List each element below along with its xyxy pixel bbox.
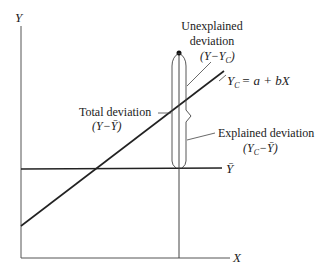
regression-label: YC= a + bX [227,73,291,90]
total-label: Total deviation [79,105,151,119]
y-axis-label: Y [15,10,24,25]
x-axis-label: X [232,250,242,265]
explained-formula: (YC−Ȳ) [243,141,278,157]
unexplained-formula: (Y−YC) [200,49,235,65]
mean-line-label: Ȳ [226,161,235,176]
explained-deviation-brace [182,116,191,168]
mean-line [21,168,222,169]
explained-leader [187,133,215,140]
unexplained-label-line1: Unexplained [181,19,242,33]
regression-diagram: Y X Ȳ Unexplained deviation (Y−YC) YC= a… [0,0,327,274]
unexplained-deviation-brace [186,66,191,116]
regression-line [21,71,224,226]
explained-label: Explained deviation [218,126,314,140]
regression-leader [219,75,226,81]
unexplained-leader [187,62,211,86]
unexplained-label-line2: deviation [190,34,235,48]
total-formula: (Y−Ȳ) [92,119,121,133]
